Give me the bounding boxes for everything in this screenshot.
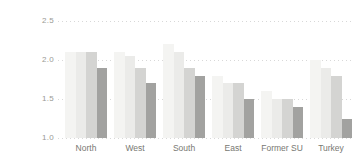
bar-group-east <box>212 76 254 138</box>
bar-south-series-3-medium <box>184 68 195 138</box>
bar-group-north <box>65 52 107 138</box>
bar-north-series-3-medium <box>86 52 97 138</box>
category-label-south: South <box>173 143 195 153</box>
bar-former-su-series-3-medium <box>282 99 293 138</box>
bar-group-former-su <box>261 91 303 138</box>
bar-east-series-1-lightest <box>212 76 223 138</box>
bar-turkey-series-4-dark <box>342 119 353 139</box>
bar-west-series-2-light <box>125 56 136 138</box>
y-tick-label-1.0: 1.0 <box>0 133 54 142</box>
bar-former-su-series-4-dark <box>293 107 304 138</box>
category-label-west: West <box>125 143 144 153</box>
bar-group-south <box>163 44 205 138</box>
bar-west-series-1-lightest <box>114 52 125 138</box>
category-label-north: North <box>76 143 97 153</box>
bar-west-series-3-medium <box>135 68 146 138</box>
category-label-former-su: Former SU <box>261 143 303 153</box>
bar-turkey-series-1-lightest <box>310 60 321 138</box>
category-label-east: East <box>224 143 241 153</box>
bar-south-series-2-light <box>174 52 185 138</box>
bar-former-su-series-1-lightest <box>261 91 272 138</box>
bar-east-series-4-dark <box>244 99 255 138</box>
category-label-turkey: Turkey <box>318 143 344 153</box>
y-tick-label-2.0: 2.0 <box>0 55 54 64</box>
bar-chart: 1.01.52.02.5 NorthWestSouthEastFormer SU… <box>0 0 354 161</box>
bar-east-series-3-medium <box>233 83 244 138</box>
bar-turkey-series-3-medium <box>331 76 342 138</box>
bar-former-su-series-2-light <box>272 99 283 138</box>
bar-turkey-series-2-light <box>321 68 332 138</box>
bar-north-series-1-lightest <box>65 52 76 138</box>
bar-west-series-4-dark <box>146 83 157 138</box>
gridline-2.5 <box>58 21 352 22</box>
bar-south-series-4-dark <box>195 76 206 138</box>
bar-north-series-2-light <box>76 52 87 138</box>
y-tick-label-2.5: 2.5 <box>0 16 54 25</box>
y-tick-label-1.5: 1.5 <box>0 94 54 103</box>
bar-group-turkey <box>310 60 352 138</box>
gridline-1.0 <box>58 138 352 139</box>
bar-south-series-1-lightest <box>163 44 174 138</box>
bar-north-series-4-dark <box>97 68 108 138</box>
bar-group-west <box>114 52 156 138</box>
bar-east-series-2-light <box>223 83 234 138</box>
